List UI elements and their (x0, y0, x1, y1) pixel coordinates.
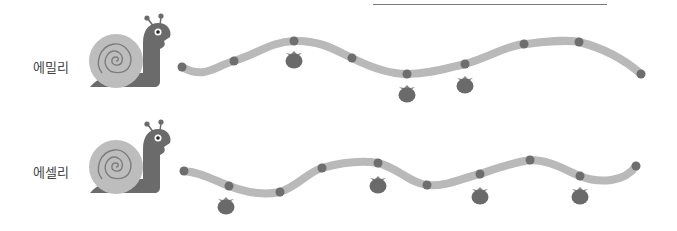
apple-icon (457, 76, 474, 94)
wavy-path (184, 160, 636, 194)
path-dot (476, 170, 485, 179)
path-dot (276, 188, 285, 197)
path-row-0 (178, 37, 646, 103)
apple-icon (399, 85, 416, 103)
apple-icon (370, 176, 387, 194)
path-dot (225, 182, 234, 191)
wavy-path (182, 41, 641, 74)
path-dot (520, 40, 529, 49)
path-dot (576, 172, 585, 181)
path-dot (423, 181, 432, 190)
path-dot (180, 167, 189, 176)
path-dot (178, 63, 187, 72)
snail-emily (89, 13, 171, 88)
path-dot (632, 162, 641, 171)
path-dot (318, 164, 327, 173)
apple-icon (472, 187, 489, 205)
path-dot (637, 70, 646, 79)
path-dot (348, 54, 357, 63)
apple-icon (286, 51, 303, 69)
path-dot (230, 57, 239, 66)
apple-icon (218, 197, 235, 215)
snail-apple-diagram (0, 0, 677, 231)
path-dot (461, 60, 470, 69)
path-dot (290, 37, 299, 46)
path-dot (374, 159, 383, 168)
path-row-1 (180, 156, 641, 215)
snail-ashley (89, 119, 171, 194)
path-dot (403, 70, 412, 79)
path-dot (526, 156, 535, 165)
apple-icon (572, 187, 589, 205)
path-dot (575, 38, 584, 47)
